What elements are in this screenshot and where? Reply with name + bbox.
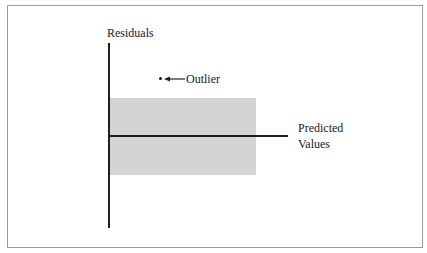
x-axis-line — [109, 135, 288, 137]
outlier-label: Outlier — [186, 72, 220, 86]
y-axis-label: Residuals — [107, 26, 154, 40]
left-arrow-icon — [164, 74, 186, 84]
x-axis-label-line1: Predicted — [298, 120, 343, 136]
outlier-point — [159, 77, 162, 80]
x-axis-label: Predicted Values — [298, 120, 343, 152]
x-axis-label-line2: Values — [298, 136, 343, 152]
